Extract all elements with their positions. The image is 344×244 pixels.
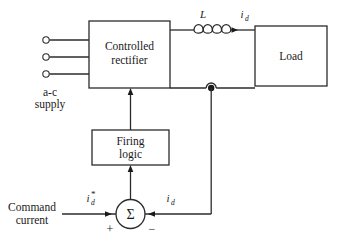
load-label: Load [279,50,303,62]
current-id-label-feedback: i d [166,192,175,207]
current-id-subscript-top: d [245,14,249,23]
inductor-symbol [194,25,231,34]
ac-supply-terminal-2 [43,54,49,60]
command-current-label-line2: current [16,214,49,226]
feedback-direction-arrow [148,211,155,217]
controlled-rectifier-label-line1: Controlled [105,40,154,52]
command-current-label-line1: Command [8,201,56,213]
current-id-label-top: i d [240,8,249,23]
command-current-base: i [86,192,89,204]
ac-supply-terminal-3 [43,71,49,77]
firing-logic-label-line2: logic [119,148,142,161]
ac-supply-terminal-1 [43,37,49,43]
command-current-subscript: d [91,198,95,207]
current-id-base-feedback: i [166,192,169,204]
current-direction-arrow-top [232,27,239,33]
firing-to-rectifier-arrow [128,88,134,95]
block-diagram-canvas: a-c supply Controlled rectifier L i d [0,0,344,244]
firing-logic-label-line1: Firing [116,135,144,148]
command-current-symbol: i * d [86,189,96,207]
current-id-subscript-feedback: d [171,198,175,207]
ac-supply-terminal-group [43,37,89,77]
command-current-arrow [105,211,112,217]
ac-supply-label-line1: a-c [43,86,57,98]
summing-junction-sigma: Σ [126,207,134,222]
summing-junction-minus: − [149,222,156,236]
summing-junction-plus: + [107,222,114,236]
controlled-rectifier-label-line2: rectifier [111,54,148,66]
diagram-svg: a-c supply Controlled rectifier L i d [0,0,344,244]
inductor-label: L [199,8,206,20]
current-id-base-top: i [240,8,243,20]
sum-to-firing-arrow [128,165,134,172]
ac-supply-label-line2: supply [35,98,66,111]
